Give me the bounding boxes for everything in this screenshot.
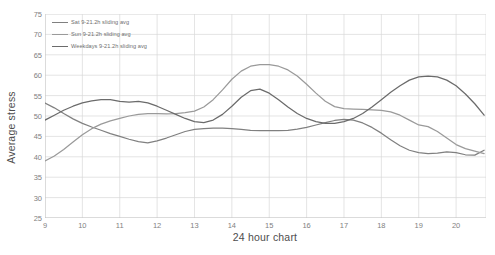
y-axis-tick-labels: 2530354045505560657075 <box>20 14 42 218</box>
y-tick-label: 40 <box>22 152 42 161</box>
legend-item-1[interactable]: Sun 9-21.2h sliding avg <box>52 30 147 38</box>
y-tick-label: 30 <box>22 193 42 202</box>
x-axis-title: 24 hour chart <box>45 231 485 243</box>
x-tick-label: 19 <box>407 221 431 230</box>
legend-label: Weekdays 9-21.2h sliding avg <box>71 43 147 49</box>
x-tick-label: 20 <box>444 221 468 230</box>
y-tick-label: 70 <box>22 30 42 39</box>
y-axis-title: Average stress <box>0 0 22 255</box>
x-tick-label: 9 <box>33 221 57 230</box>
legend-item-0[interactable]: Sat 9-21.2h sliding avg <box>52 18 147 26</box>
y-tick-label: 55 <box>22 91 42 100</box>
legend-item-2[interactable]: Weekdays 9-21.2h sliding avg <box>52 42 147 50</box>
y-tick-label: 50 <box>22 112 42 121</box>
x-tick-label: 14 <box>220 221 244 230</box>
legend-swatch-icon <box>52 34 68 35</box>
legend-label: Sat 9-21.2h sliding avg <box>71 19 129 25</box>
chart-legend: Sat 9-21.2h sliding avgSun 9-21.2h slidi… <box>52 18 147 50</box>
x-tick-label: 17 <box>332 221 356 230</box>
x-tick-label: 18 <box>369 221 393 230</box>
x-tick-label: 16 <box>295 221 319 230</box>
y-tick-label: 45 <box>22 132 42 141</box>
y-tick-label: 75 <box>22 10 42 19</box>
y-tick-label: 65 <box>22 50 42 59</box>
x-tick-label: 12 <box>145 221 169 230</box>
x-tick-label: 11 <box>108 221 132 230</box>
legend-label: Sun 9-21.2h sliding avg <box>71 31 131 37</box>
series-line-1 <box>45 65 484 161</box>
x-tick-label: 15 <box>257 221 281 230</box>
legend-swatch-icon <box>52 22 68 23</box>
series-line-0 <box>45 103 484 155</box>
y-tick-label: 60 <box>22 71 42 80</box>
x-tick-label: 10 <box>70 221 94 230</box>
x-tick-label: 13 <box>182 221 206 230</box>
stress-line-chart: Average stress 2530354045505560657075 91… <box>0 0 495 255</box>
legend-swatch-icon <box>52 46 68 47</box>
data-series-layer <box>45 65 484 161</box>
y-tick-label: 35 <box>22 173 42 182</box>
